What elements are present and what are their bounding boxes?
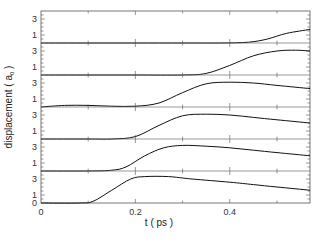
y-axis-label: displacement ( a0 ) — [3, 66, 15, 149]
y-tick-label: 1 — [32, 94, 37, 104]
y-tick-label: 3 — [32, 142, 37, 152]
series-line — [41, 145, 310, 171]
panels-group: 131313131313 — [32, 11, 310, 203]
y-zero-label: 0 — [32, 198, 37, 208]
y-tick-label: 1 — [32, 158, 37, 168]
panel-1: 13 — [32, 11, 310, 43]
y-tick-label: 1 — [32, 30, 37, 40]
y-tick-label: 3 — [32, 14, 37, 24]
y-tick-label: 3 — [32, 110, 37, 120]
x-tick-label: 0.2 — [129, 207, 142, 217]
x-tick-label: 0.4 — [224, 207, 237, 217]
y-tick-label: 1 — [32, 62, 37, 72]
panel-6: 13 — [32, 171, 310, 203]
panel-2: 13 — [32, 43, 310, 75]
y-tick-label: 1 — [32, 126, 37, 136]
x-axis-label: t ( ps ) — [145, 217, 173, 228]
panel-5: 13 — [32, 139, 310, 171]
series-line — [41, 114, 310, 139]
series-line — [41, 82, 310, 107]
series-line — [41, 50, 310, 75]
y-tick-label: 3 — [32, 174, 37, 184]
stacked-displacement-chart: 131313131313 000.20.4 t ( ps ) displacem… — [0, 0, 318, 241]
y-axis-label-close: ) — [3, 66, 14, 72]
series-line — [41, 176, 310, 203]
series-line — [41, 29, 310, 43]
panel-4: 13 — [32, 107, 310, 139]
y-axis-label-text: displacement ( a — [3, 75, 14, 149]
x-tick-label: 0 — [38, 207, 43, 217]
panel-3: 13 — [32, 75, 310, 107]
y-tick-label: 3 — [32, 78, 37, 88]
x-axis: 000.20.4 — [32, 198, 236, 217]
y-tick-label: 3 — [32, 46, 37, 56]
